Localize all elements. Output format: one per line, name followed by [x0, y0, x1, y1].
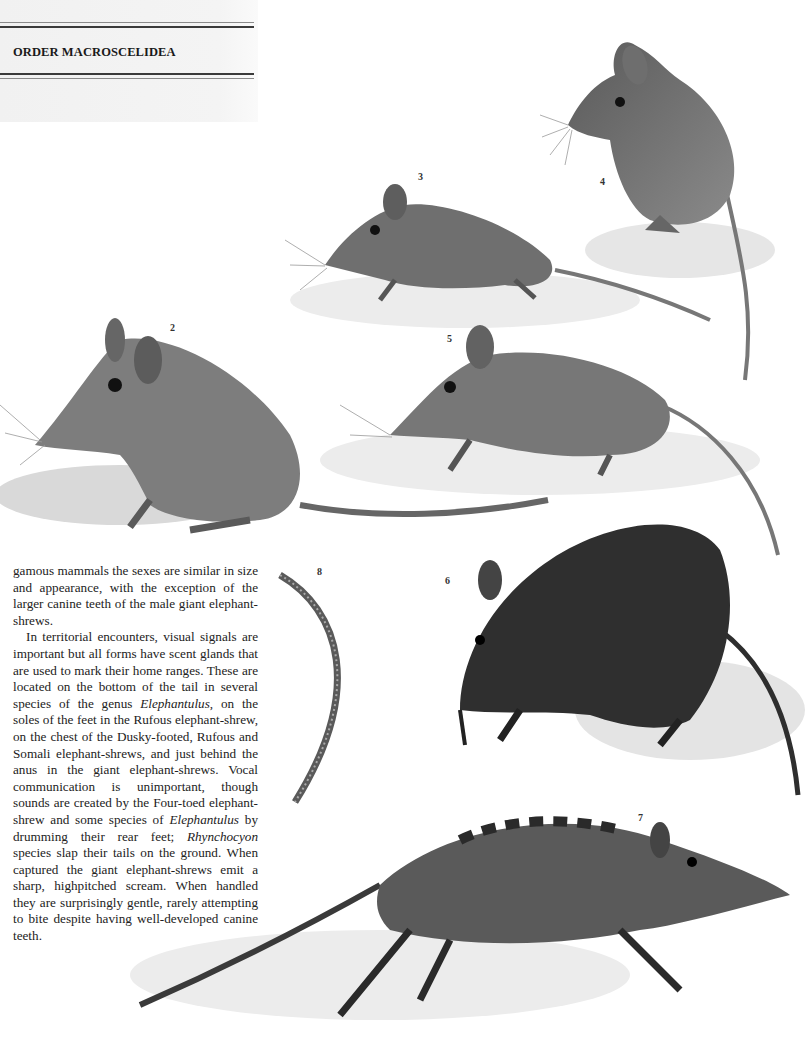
elephant-shrew-mound-icon: [285, 180, 715, 330]
giant-elephant-shrew-icon: [120, 800, 800, 1040]
figure-8-illustration: [270, 570, 370, 810]
elephant-shrew-dark-icon: [420, 510, 805, 810]
header-rule-bottom-thin: [0, 78, 254, 79]
tail-detail-icon: [270, 570, 370, 810]
paragraph-1: gamous mammals the sexes are similar in …: [13, 563, 258, 629]
figure-6-illustration: [420, 510, 805, 810]
figure-7-illustration: [120, 800, 800, 1040]
header-rule-bottom-thick: [0, 73, 254, 75]
header-rule-top-thin: [0, 22, 254, 23]
section-title: ORDER MACROSCELIDEA: [13, 45, 176, 60]
section-header-panel: ORDER MACROSCELIDEA: [0, 0, 258, 122]
figure-3-illustration: [285, 180, 715, 330]
genus-name: Elephantulus: [140, 696, 210, 711]
header-rule-top-thick: [0, 26, 254, 28]
text-segment: gamous mammals the sexes are similar in …: [13, 563, 258, 628]
